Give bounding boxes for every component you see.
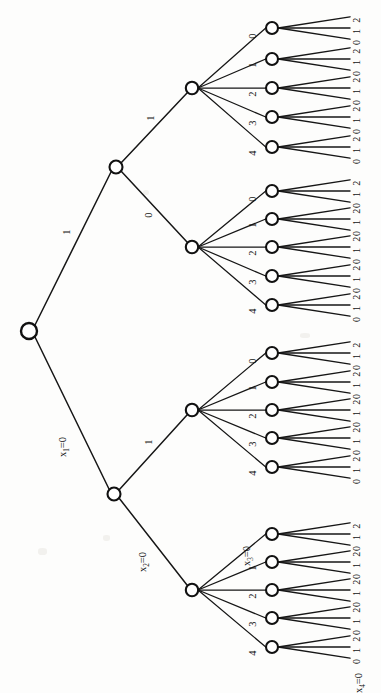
tree-edge — [278, 180, 350, 191]
leaf-digit-label: 2 — [351, 524, 362, 529]
leaf-digit-label: 2 — [351, 372, 362, 377]
tree-node-level2-1[interactable] — [186, 82, 198, 94]
leaf-digit-label: 1 — [351, 118, 362, 123]
tree-edge — [278, 59, 350, 70]
edge-label-level3: 3 — [247, 279, 258, 284]
leaf-digit-label: 0 — [351, 394, 362, 399]
leaf-digit-label: 0 — [351, 288, 362, 293]
tree-node-level3-g3-1[interactable] — [266, 376, 278, 388]
leaf-digit-label: 2 — [351, 237, 362, 242]
leaf-digit-label: 2 — [351, 637, 362, 642]
leaf-digit-label: 0 — [351, 71, 362, 76]
tree-edge — [278, 523, 350, 534]
tree-node-root[interactable] — [21, 323, 37, 339]
tree-edge — [278, 208, 350, 219]
tree-edge — [278, 618, 350, 629]
tree-node-level3-g1-4[interactable] — [266, 141, 278, 153]
leaf-digit-label: 0 — [351, 203, 362, 208]
leaf-digit-label: 0 — [351, 100, 362, 105]
edge-label-x1-1: 1 — [61, 229, 72, 234]
leaf-digit-label: 0 — [351, 574, 362, 579]
tree-edge — [278, 276, 350, 287]
tree-edge — [278, 147, 350, 158]
leaf-digit-label: 2 — [351, 49, 362, 54]
leaf-digit-label: 0 — [351, 159, 362, 164]
tree-node-level3-g3-3[interactable] — [266, 432, 278, 444]
tree-node-level3-g2-2[interactable] — [266, 241, 278, 253]
tree-node-level3-g2-1[interactable] — [266, 213, 278, 225]
tree-edge — [278, 342, 350, 353]
tree-node-level3-g3-0[interactable] — [266, 347, 278, 359]
tree-edge — [278, 410, 350, 421]
edge-label-level3: 4 — [247, 308, 258, 314]
diagram-canvas: 0120120120120120120120120120120120120120… — [0, 0, 381, 693]
tree-edge — [278, 636, 350, 647]
edge-label-level3: 2 — [247, 91, 258, 96]
leaf-digit-label: 1 — [351, 619, 362, 624]
tree-node-level3-g1-3[interactable] — [266, 111, 278, 123]
edge-label-level3: 4 — [247, 650, 258, 656]
tree-node-level3-g2-3[interactable] — [266, 270, 278, 282]
tree-diagram: 0120120120120120120120120120120120120120… — [0, 0, 381, 693]
leaf-digit-label: 1 — [351, 192, 362, 197]
edge-label-level3: 4 — [247, 150, 258, 156]
tree-node-level3-g4-4[interactable] — [266, 641, 278, 653]
tree-node-level1-2[interactable] — [108, 488, 121, 501]
edge-label-level3: 2 — [247, 593, 258, 598]
leaf-digit-label: 2 — [351, 343, 362, 348]
tree-edge — [278, 590, 350, 601]
edge-label-level3: 3 — [247, 621, 258, 626]
leaf-digit-label: 2 — [351, 137, 362, 142]
leaf-digit-label: 0 — [351, 259, 362, 264]
tree-edge — [278, 219, 350, 230]
tree-node-level3-g1-1[interactable] — [266, 53, 278, 65]
tree-node-level3-g3-4[interactable] — [266, 461, 278, 473]
leaf-digit-label: 0 — [351, 129, 362, 134]
tree-edge — [278, 438, 350, 449]
tree-node-level3-g4-3[interactable] — [266, 612, 278, 624]
tree-node-level3-g4-2[interactable] — [266, 584, 278, 596]
tree-node-level3-g4-0[interactable] — [266, 528, 278, 540]
leaf-digit-label: 2 — [351, 428, 362, 433]
tree-node-level2-4[interactable] — [186, 584, 198, 596]
leaf-digit-label: 0 — [351, 546, 362, 551]
leaf-digit-label: 0 — [351, 365, 362, 370]
tree-node-level3-g4-1[interactable] — [266, 556, 278, 568]
leaf-digit-label: 1 — [351, 383, 362, 388]
leaf-digit-label: 1 — [351, 248, 362, 253]
tree-node-level3-g3-2[interactable] — [266, 404, 278, 416]
edge-label-level3: 1 — [247, 62, 258, 67]
tree-node-level2-3[interactable] — [186, 404, 198, 416]
tree-edge — [278, 191, 350, 202]
tree-edge — [278, 294, 350, 305]
tree-edge — [278, 562, 350, 573]
tree-node-level3-g2-0[interactable] — [266, 185, 278, 197]
edge-label-x1: x1=0 — [57, 437, 70, 457]
tree-edge — [278, 77, 350, 88]
tree-edge — [278, 88, 350, 99]
tree-edge — [198, 534, 266, 590]
edge-label-x2: x2=0 — [137, 552, 150, 572]
tree-node-level1-1[interactable] — [110, 161, 123, 174]
tree-node-level3-g1-0[interactable] — [266, 22, 278, 34]
tree-edge — [121, 93, 187, 163]
leaf-digit-label: 1 — [351, 277, 362, 282]
edge-label-level3: 0 — [247, 358, 258, 363]
leaf-digit-label: 0 — [351, 602, 362, 607]
tree-node-level3-g1-2[interactable] — [266, 82, 278, 94]
leaf-digit-label: 2 — [351, 107, 362, 112]
tree-edge — [278, 607, 350, 618]
leaf-digit-label: 2 — [351, 552, 362, 557]
tree-edge — [278, 467, 350, 478]
tree-node-level3-g2-4[interactable] — [266, 299, 278, 311]
tree-edge — [278, 427, 350, 438]
leaf-digit-label: 0 — [351, 630, 362, 635]
tree-node-level2-2[interactable] — [186, 241, 198, 253]
leaf-digit-label: 1 — [351, 148, 362, 153]
edge-label-x2-upper-1: 1 — [145, 115, 156, 120]
leaf-digit-label: 2 — [351, 209, 362, 214]
tree-edge — [278, 28, 350, 39]
leaf-digit-label: 1 — [351, 354, 362, 359]
leaf-digit-label: 0 — [351, 317, 362, 322]
leaf-digit-label: 0 — [351, 479, 362, 484]
